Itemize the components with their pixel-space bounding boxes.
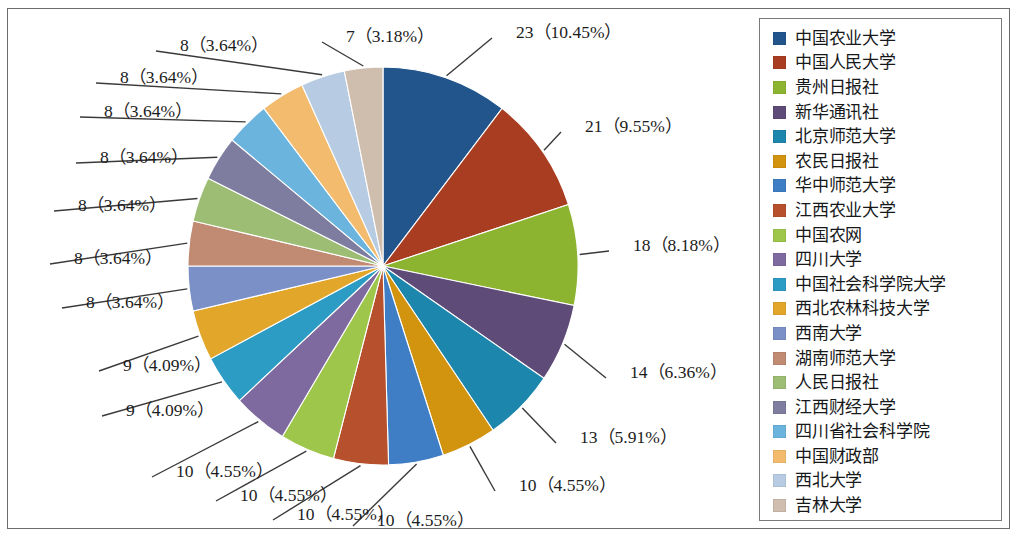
- legend-color-swatch: [773, 106, 786, 119]
- legend-color-swatch: [773, 81, 786, 94]
- legend-item[interactable]: 江西财经大学: [773, 395, 1001, 420]
- legend-color-swatch: [773, 401, 786, 414]
- legend-item[interactable]: 新华通讯社: [773, 100, 1001, 125]
- legend-color-swatch: [773, 425, 786, 438]
- leader-line: [580, 251, 609, 255]
- legend-item-label: 西南大学: [795, 325, 862, 342]
- legend-color-swatch: [773, 499, 786, 512]
- leader-line: [544, 132, 561, 150]
- legend-item[interactable]: 中国财政部: [773, 444, 1001, 469]
- legend-color-swatch: [773, 327, 786, 340]
- leader-line: [470, 446, 495, 491]
- legend-item[interactable]: 西北大学: [773, 469, 1001, 494]
- legend-item[interactable]: 西北农林科技大学: [773, 297, 1001, 322]
- legend-color-swatch: [773, 278, 786, 291]
- legend-color-swatch: [773, 352, 786, 365]
- legend-color-swatch: [773, 130, 786, 143]
- legend-color-swatch: [773, 32, 786, 45]
- legend-item-label: 新华通讯社: [795, 104, 879, 121]
- legend-item-label: 中国财政部: [795, 448, 879, 465]
- legend-item[interactable]: 吉林大学: [773, 493, 1001, 518]
- slice-label-4: 14（6.36%）: [630, 358, 727, 383]
- legend-item-label: 中国农业大学: [795, 30, 896, 47]
- legend-item[interactable]: 北京师范大学: [773, 124, 1001, 149]
- slice-label-12: 9（4.09%）: [123, 351, 211, 376]
- chart-legend: 中国农业大学中国人民大学贵州日报社新华通讯社北京师范大学农民日报社华中师范大学江…: [759, 18, 1002, 521]
- legend-item[interactable]: 中国农业大学: [773, 26, 1001, 51]
- leader-line: [565, 344, 607, 378]
- legend-item-label: 农民日报社: [795, 153, 879, 170]
- legend-item[interactable]: 江西农业大学: [773, 198, 1001, 223]
- legend-item-label: 四川大学: [795, 251, 862, 268]
- legend-item-label: 中国人民大学: [795, 54, 896, 71]
- slice-label-1: 23（10.45%）: [516, 18, 621, 43]
- legend-item-label: 北京师范大学: [795, 128, 896, 145]
- legend-item-label: 贵州日报社: [795, 79, 879, 96]
- legend-item[interactable]: 人民日报社: [773, 370, 1001, 395]
- slice-label-9: 10（4.55%）: [240, 481, 337, 506]
- legend-item[interactable]: 西南大学: [773, 321, 1001, 346]
- legend-item-label: 吉林大学: [795, 497, 862, 514]
- slice-label-20: 7（3.18%）: [346, 22, 434, 47]
- pie-slices-group: [188, 67, 578, 465]
- legend-item-label: 江西农业大学: [795, 202, 896, 219]
- legend-item-label: 西北大学: [795, 472, 862, 489]
- leader-line: [447, 38, 493, 76]
- legend-item[interactable]: 湖南师范大学: [773, 346, 1001, 371]
- legend-color-swatch: [773, 474, 786, 487]
- legend-item-label: 湖南师范大学: [795, 350, 896, 367]
- legend-color-swatch: [773, 450, 786, 463]
- legend-item-label: 华中师范大学: [795, 177, 896, 194]
- legend-item-label: 中国农网: [795, 227, 862, 244]
- legend-item-label: 西北农林科技大学: [795, 300, 929, 317]
- slice-label-16: 8（3.64%）: [100, 143, 188, 168]
- slice-label-19: 8（3.64%）: [180, 31, 268, 56]
- legend-item[interactable]: 中国农网: [773, 223, 1001, 248]
- slice-label-11: 9（4.09%）: [126, 396, 214, 421]
- legend-item[interactable]: 华中师范大学: [773, 174, 1001, 199]
- slice-label-17: 8（3.64%）: [104, 97, 192, 122]
- legend-color-swatch: [773, 229, 786, 242]
- slice-label-15: 8（3.64%）: [78, 191, 166, 216]
- leader-line: [522, 408, 556, 443]
- slice-label-6: 10（4.55%）: [519, 471, 616, 496]
- slice-label-2: 21（9.55%）: [585, 112, 682, 137]
- legend-color-swatch: [773, 56, 786, 69]
- legend-item[interactable]: 中国人民大学: [773, 51, 1001, 76]
- legend-item[interactable]: 农民日报社: [773, 149, 1001, 174]
- slice-label-3: 18（8.18%）: [633, 231, 730, 256]
- legend-item-label: 中国社会科学院大学: [795, 276, 946, 293]
- legend-color-swatch: [773, 204, 786, 217]
- legend-color-swatch: [773, 302, 786, 315]
- legend-color-swatch: [773, 155, 786, 168]
- slice-label-14: 8（3.64%）: [74, 244, 162, 269]
- slice-label-5: 13（5.91%）: [580, 423, 677, 448]
- legend-item[interactable]: 四川省社会科学院: [773, 420, 1001, 445]
- slice-label-13: 8（3.64%）: [86, 288, 174, 313]
- legend-item[interactable]: 贵州日报社: [773, 75, 1001, 100]
- slice-label-18: 8（3.64%）: [120, 63, 208, 88]
- legend-item-label: 四川省社会科学院: [795, 423, 929, 440]
- legend-item[interactable]: 中国社会科学院大学: [773, 272, 1001, 297]
- legend-color-swatch: [773, 179, 786, 192]
- legend-item-label: 人民日报社: [795, 374, 879, 391]
- legend-color-swatch: [773, 376, 786, 389]
- legend-item[interactable]: 四川大学: [773, 247, 1001, 272]
- legend-color-swatch: [773, 253, 786, 266]
- legend-item-label: 江西财经大学: [795, 399, 896, 416]
- slice-label-10: 10（4.55%）: [176, 457, 273, 482]
